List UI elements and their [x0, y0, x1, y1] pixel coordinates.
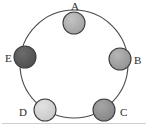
- node-b[interactable]: [109, 48, 131, 70]
- node-label-e: E: [5, 53, 12, 64]
- node-d[interactable]: [34, 99, 56, 121]
- circular-node-diagram: A B C D E: [0, 0, 148, 125]
- node-label-a: A: [71, 1, 79, 12]
- node-c[interactable]: [93, 99, 115, 121]
- node-label-c: C: [120, 107, 127, 118]
- node-label-d: D: [19, 107, 27, 118]
- node-e[interactable]: [14, 46, 36, 68]
- node-a[interactable]: [63, 12, 85, 34]
- node-label-b: B: [134, 55, 141, 66]
